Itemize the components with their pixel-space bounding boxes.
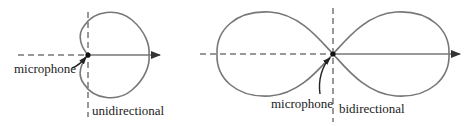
microphone-label: microphone — [14, 61, 76, 76]
microphone-label: microphone — [271, 96, 333, 111]
polar-pattern-diagram: microphone unidirectional microphone bid… — [0, 0, 466, 126]
unidirectional-diagram: microphone unidirectional — [14, 12, 165, 118]
microphone-point — [330, 51, 335, 56]
microphone-point — [85, 52, 90, 57]
bidirectional-diagram: microphone bidirectional — [200, 8, 460, 122]
unidirectional-label: unidirectional — [92, 103, 165, 118]
bidirectional-label: bidirectional — [339, 101, 405, 116]
